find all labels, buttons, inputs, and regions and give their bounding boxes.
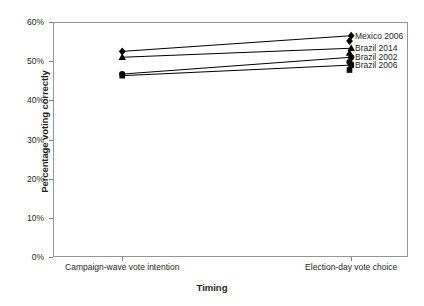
legend-item-mexico-2006[interactable]: Mexico 2006	[345, 31, 403, 40]
y-tick-label: 30%	[27, 135, 44, 145]
legend-item-brazil-2006[interactable]: Brazil 2006	[345, 61, 398, 70]
series-brazil-2014	[119, 44, 355, 60]
y-tick-label: 60%	[27, 17, 44, 27]
y-tick-label: 10%	[27, 213, 44, 223]
y-tick-label: 40%	[27, 95, 44, 105]
legend-item-label: Brazil 2006	[354, 61, 398, 70]
series-line	[122, 48, 351, 57]
x-tick-mark	[351, 257, 352, 261]
x-tick-label: Election-day vote choice	[305, 262, 397, 272]
y-tick-label: 20%	[27, 174, 44, 184]
y-tick-mark	[49, 257, 53, 258]
y-axis-ticks: 60%50%40%30%20%10%0%	[0, 0, 50, 306]
triangle-marker-icon	[345, 44, 354, 53]
series-line	[122, 65, 351, 76]
x-tick-mark	[122, 257, 123, 261]
data-point-marker	[119, 73, 125, 79]
x-axis-title: Timing	[0, 282, 424, 293]
y-tick-label: 50%	[27, 56, 44, 66]
x-tick-label: Campaign-wave vote intention	[65, 262, 179, 272]
legend-item-label: Mexico 2006	[354, 31, 403, 40]
series-line	[122, 57, 351, 74]
series-line	[122, 36, 351, 52]
square-marker-icon	[345, 61, 354, 70]
diamond-marker-icon	[345, 31, 354, 40]
series-group	[119, 32, 355, 79]
chart-figure: Percentage voting correctly 60%50%40%30%…	[0, 0, 424, 306]
series-brazil-2006	[119, 62, 354, 78]
y-tick-label: 0%	[32, 252, 44, 262]
series-mexico-2006	[119, 32, 355, 56]
